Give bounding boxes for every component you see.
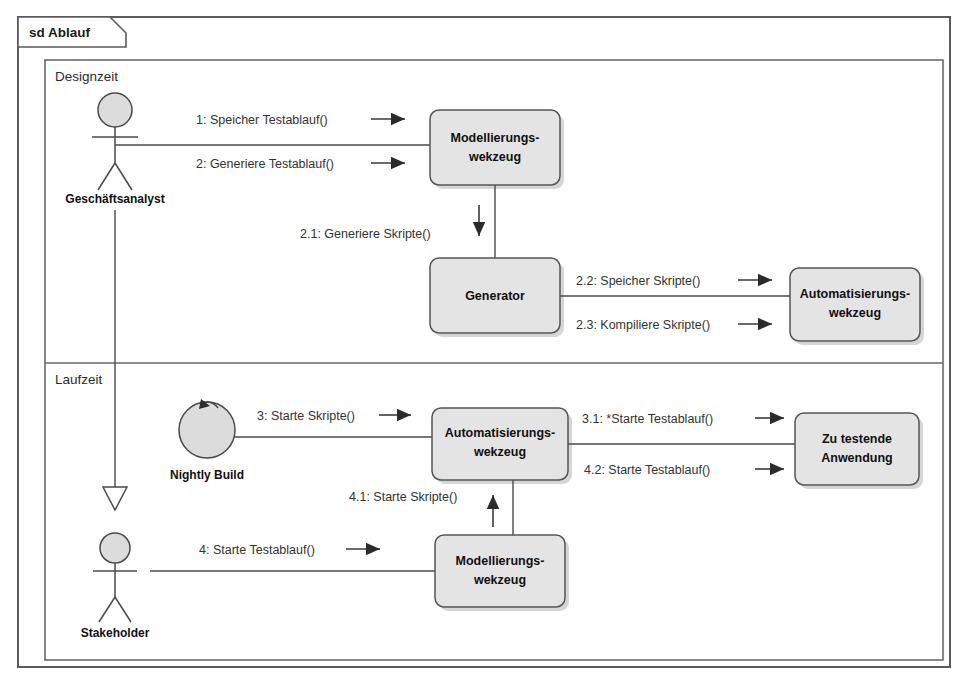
- node-generator[interactable]: Generator: [430, 258, 564, 337]
- message-2-1: 2.1: Generiere Skripte(): [300, 205, 479, 241]
- message-2-2: 2.2: Speicher Skripte(): [576, 274, 772, 288]
- node-automatisierungswerkzeug-laufzeit-line2: wekzeug: [473, 445, 526, 459]
- uml-communication-diagram: sd Ablauf Designzeit Laufzeit Geschäftsa…: [0, 0, 968, 684]
- message-3-label: 3: Starte Skripte(): [257, 409, 355, 423]
- actor-nightly-build[interactable]: Nightly Build: [170, 399, 244, 482]
- message-4: 4: Starte Testablauf(): [199, 543, 380, 557]
- message-4-1: 4.1: Starte Skripte(): [349, 490, 493, 527]
- node-modellierungswerkzeug-design[interactable]: Modellierungs- wekzeug: [430, 110, 564, 189]
- node-modellierungswerkzeug-laufzeit-line2: wekzeug: [473, 573, 526, 587]
- message-2-1-label: 2.1: Generiere Skripte(): [300, 227, 431, 241]
- actor-head-icon: [98, 93, 132, 127]
- node-automatisierungswerkzeug-design[interactable]: Automatisierungs- wekzeug: [790, 268, 924, 345]
- message-2-3-label: 2.3: Kompiliere Skripte(): [576, 318, 710, 332]
- message-3-1-label: 3.1: *Starte Testablauf(): [582, 412, 713, 426]
- node-modellierungswerkzeug-laufzeit-line1: Modellierungs-: [456, 554, 545, 568]
- message-2-3: 2.3: Kompiliere Skripte(): [576, 318, 772, 332]
- message-3-1: 3.1: *Starte Testablauf(): [582, 412, 784, 426]
- node-zu-testende-anwendung-line1: Zu testende: [822, 432, 892, 446]
- node-generator-label: Generator: [465, 289, 525, 303]
- node-zu-testende-anwendung[interactable]: Zu testende Anwendung: [795, 413, 923, 489]
- node-automatisierungswerkzeug-design-line2: wekzeug: [828, 306, 881, 320]
- actor-label-nightly-build: Nightly Build: [170, 468, 244, 482]
- message-3: 3: Starte Skripte(): [257, 409, 411, 423]
- node-zu-testende-anwendung-line2: Anwendung: [821, 451, 893, 465]
- node-automatisierungswerkzeug-design-line1: Automatisierungs-: [800, 287, 910, 301]
- message-1: 1: Speicher Testablauf(): [196, 113, 405, 127]
- actor-geschaeftsanalyst[interactable]: Geschäftsanalyst: [65, 93, 164, 206]
- timer-circle-icon: [179, 402, 235, 458]
- region-label-laufzeit: Laufzeit: [55, 372, 103, 387]
- node-modellierungswerkzeug-design-line1: Modellierungs-: [451, 131, 540, 145]
- generalization-arrowhead: [103, 487, 127, 510]
- actor-label-geschaeftsanalyst: Geschäftsanalyst: [65, 192, 164, 206]
- node-modellierungswerkzeug-laufzeit[interactable]: Modellierungs- wekzeug: [435, 535, 569, 611]
- frame-tab-label: sd Ablauf: [29, 25, 91, 40]
- node-modellierungswerkzeug-design-line2: wekzeug: [468, 150, 521, 164]
- region-label-designzeit: Designzeit: [55, 69, 118, 84]
- message-1-label: 1: Speicher Testablauf(): [196, 113, 328, 127]
- message-2-2-label: 2.2: Speicher Skripte(): [576, 274, 700, 288]
- message-4-2-label: 4.2: Starte Testablauf(): [584, 463, 710, 477]
- node-automatisierungswerkzeug-laufzeit-line1: Automatisierungs-: [445, 426, 555, 440]
- actor-label-stakeholder: Stakeholder: [81, 626, 150, 640]
- message-2-label: 2: Generiere Testablauf(): [196, 157, 334, 171]
- message-4-label: 4: Starte Testablauf(): [199, 543, 315, 557]
- actor-stakeholder[interactable]: Stakeholder: [81, 533, 150, 640]
- message-2: 2: Generiere Testablauf(): [196, 157, 405, 171]
- actor-head-icon-stakeholder: [100, 533, 130, 563]
- node-automatisierungswerkzeug-laufzeit[interactable]: Automatisierungs- wekzeug: [432, 408, 572, 484]
- diagram-canvas: sd Ablauf Designzeit Laufzeit Geschäftsa…: [0, 0, 968, 684]
- message-4-1-label: 4.1: Starte Skripte(): [349, 490, 457, 504]
- message-4-2: 4.2: Starte Testablauf(): [584, 463, 784, 477]
- generalization-link: [103, 210, 127, 510]
